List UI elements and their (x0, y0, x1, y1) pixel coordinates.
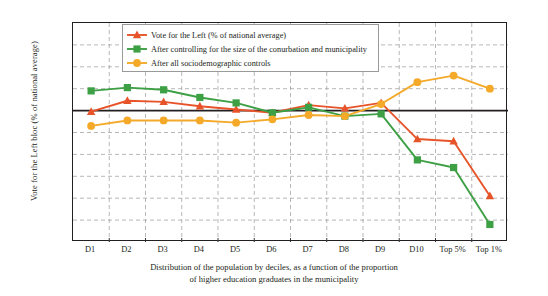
data-point (305, 111, 313, 119)
series-1 (87, 96, 494, 199)
legend-marker-triangle-icon (127, 29, 147, 41)
data-point (486, 221, 493, 228)
data-point (305, 104, 312, 111)
data-point (196, 94, 203, 101)
data-point (450, 72, 458, 80)
x-tick-label-d2: D2 (121, 245, 131, 254)
data-point (232, 119, 240, 127)
x-axis-caption-line1: Distribution of the population by decile… (0, 262, 548, 274)
x-tick-label-top-1: Top 1% (476, 245, 502, 254)
legend-label: After all sociodemographic controls (151, 59, 271, 68)
x-tick-label-d5: D5 (230, 245, 240, 254)
data-point (160, 117, 168, 125)
legend-marker-square-icon (127, 43, 147, 55)
data-point (123, 117, 131, 125)
data-point (88, 87, 95, 94)
x-tick-label-d4: D4 (194, 245, 204, 254)
x-tick-label-d1: D1 (85, 245, 95, 254)
data-point (378, 110, 385, 117)
x-tick-label-top-5: Top 5% (440, 245, 466, 254)
data-point (377, 100, 385, 108)
data-point (124, 84, 131, 91)
legend-label: After controlling for the size of the co… (151, 45, 367, 54)
data-point (486, 85, 494, 93)
x-tick-label-d8: D8 (339, 245, 349, 254)
data-point (450, 164, 457, 171)
x-tick-label-d10: D10 (409, 245, 423, 254)
legend-item-1: Vote for the Left (% of national average… (127, 28, 374, 42)
x-tick-label-d3: D3 (158, 245, 168, 254)
x-tick-label-d7: D7 (303, 245, 313, 254)
data-point (87, 122, 95, 130)
x-axis-caption: Distribution of the population by decile… (0, 262, 548, 285)
data-point (160, 86, 167, 93)
x-axis-caption-line2: of higher education graduates in the mun… (0, 274, 548, 286)
data-point (233, 99, 240, 106)
legend-label: Vote for the Left (% of national average… (151, 31, 286, 40)
data-point (413, 78, 421, 86)
chart-legend: Vote for the Left (% of national average… (122, 24, 379, 72)
data-point (269, 109, 276, 116)
x-axis-tick-labels: D1D2D3D4D5D6D7D8D9D10Top 5%Top 1% (0, 245, 548, 259)
legend-symbol (133, 45, 140, 52)
data-point (341, 112, 349, 120)
legend-symbol (133, 59, 141, 67)
legend-marker-circle-icon (127, 57, 147, 69)
legend-item-2: After controlling for the size of the co… (127, 42, 374, 56)
data-point (414, 156, 421, 163)
data-point (268, 115, 276, 123)
x-tick-label-d9: D9 (375, 245, 385, 254)
x-tick-label-d6: D6 (266, 245, 276, 254)
chart-root: Vote for the Left bloc (% of national av… (0, 0, 548, 296)
data-point (196, 117, 204, 125)
legend-item-3: After all sociodemographic controls (127, 56, 374, 70)
